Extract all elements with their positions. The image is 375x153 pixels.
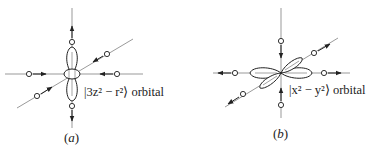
ligand-bottom [69,103,74,108]
ligand-left [26,71,31,76]
arrow-diag-upper-outward [318,44,330,51]
ligand-top [278,38,283,43]
ligand-bottom [278,102,283,107]
panel-a-diagram [5,8,143,128]
ligand-left [232,70,237,75]
ligand-diag-upper [311,50,316,55]
ligand-right [321,70,326,75]
panel-b-diagram [213,8,350,118]
orbital-torus [64,69,80,79]
ligand-right [114,71,119,76]
ligand-diag-lower [240,91,245,96]
ligand-top [69,39,74,44]
ligand-diag-upper [104,51,109,56]
arrow-diag-upper-inward [93,56,103,62]
arrow-diag-lower-inward [41,87,52,94]
jahn-teller-diagram [0,0,375,153]
orbital-label-b: |x² − y²⟩ orbital [289,82,366,98]
ligand-diag-lower [34,93,39,98]
caption-a: (a) [64,130,79,146]
arrow-diag-lower-outward [228,97,239,104]
caption-b: (b) [273,126,288,142]
orbital-label-a: |3z² − r²⟩ orbital [84,84,164,100]
